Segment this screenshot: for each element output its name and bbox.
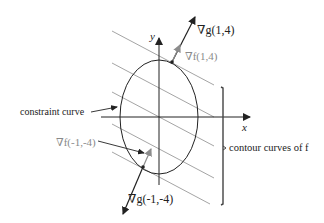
contour-line [112, 92, 214, 146]
grad-f-bottom-pointer [98, 141, 144, 153]
grad-f-bottom-label: ∇f(-1,-4) [56, 136, 96, 149]
lagrange-diagram: x y ∇g(1,4) ∇f(1,4) ∇g(-1,-4) constraint… [0, 0, 324, 223]
constraint-curve-label: constraint curve [20, 106, 85, 117]
x-axis-label: x [241, 121, 247, 133]
grad-g-bottom-arrow [123, 167, 143, 214]
contour-bracket [221, 87, 226, 205]
tangent-point-bottom [141, 165, 145, 169]
grad-f-top-label: ∇f(1,4) [185, 50, 218, 63]
grad-g-top-label: ∇g(1,4) [197, 23, 234, 37]
grad-f-top-arrow [172, 45, 180, 62]
contour-curves-label: contour curves of f [229, 142, 309, 153]
contour-line [112, 63, 214, 117]
grad-f-bottom-arrow [143, 149, 151, 167]
tangent-point-top [170, 60, 174, 64]
constraint-curve-arrow [91, 107, 117, 112]
y-axis-label: y [149, 30, 155, 42]
grad-g-bottom-label: ∇g(-1,-4) [128, 192, 173, 206]
